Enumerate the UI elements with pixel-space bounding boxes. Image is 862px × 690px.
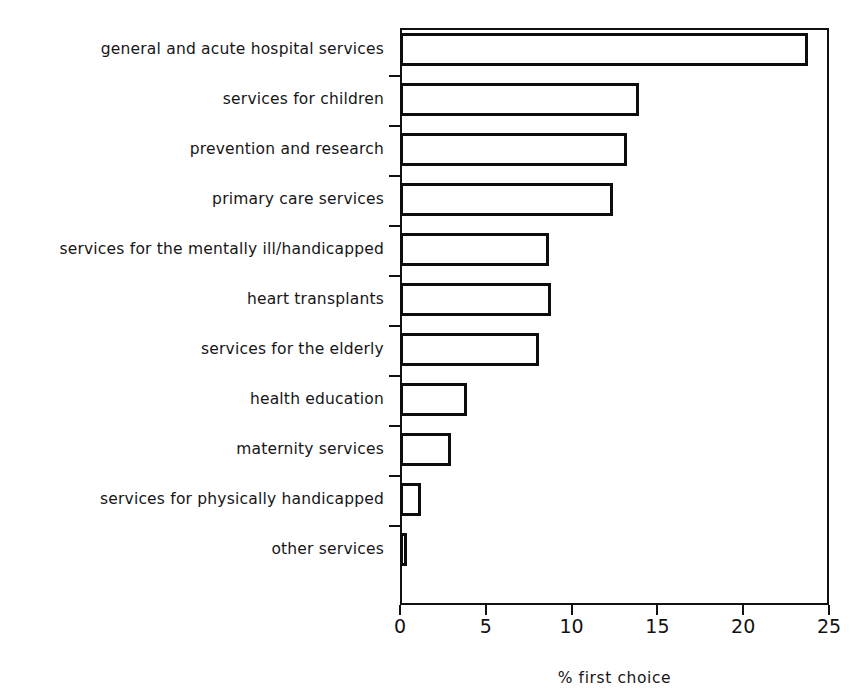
bar [400,183,613,216]
value-tick [742,605,744,615]
category-label: heart transplants [247,292,384,308]
category-tick [389,475,400,477]
category-label: prevention and research [190,142,384,158]
category-tick [389,375,400,377]
value-tick-label: 15 [645,617,669,636]
category-label: other services [271,542,384,558]
plot-frame-top [400,28,829,30]
category-label: services for children [223,92,384,108]
value-tick [485,605,487,615]
category-label: general and acute hospital services [101,42,384,58]
bar [400,333,539,366]
bar [400,283,551,316]
category-axis-line [400,603,829,605]
value-tick [828,605,830,615]
bar [400,33,808,66]
bar [400,533,407,566]
category-tick [389,125,400,127]
category-label: maternity services [236,442,384,458]
bar [400,133,627,166]
bar [400,83,639,116]
category-label: primary care services [212,192,384,208]
category-tick [389,275,400,277]
category-tick [389,75,400,77]
bar [400,233,549,266]
x-axis-title: % first choice [400,669,829,687]
value-tick-label: 25 [817,617,841,636]
value-tick [571,605,573,615]
bar [400,483,421,516]
value-tick [656,605,658,615]
plot-frame-right [827,28,829,605]
category-tick [389,525,400,527]
value-tick-label: 20 [731,617,755,636]
category-tick [389,175,400,177]
value-tick-label: 5 [480,617,492,636]
category-label: services for physically handicapped [100,492,384,508]
category-tick [389,325,400,327]
category-tick [389,425,400,427]
bar [400,433,451,466]
bar-chart: general and acute hospital servicesservi… [0,0,862,690]
bar [400,383,467,416]
value-tick-label: 10 [560,617,584,636]
category-label: health education [250,392,384,408]
value-tick-label: 0 [394,617,406,636]
category-label: services for the mentally ill/handicappe… [59,242,384,258]
category-label: services for the elderly [201,342,384,358]
category-tick [389,225,400,227]
category-axis-labels: general and acute hospital servicesservi… [0,0,392,690]
value-tick [399,605,401,615]
plot-area: 0510152025 % first choice [400,28,829,605]
